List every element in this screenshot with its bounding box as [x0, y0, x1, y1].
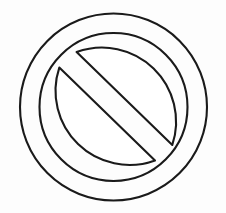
illustration-canvas: Black outline drawing of a circular proh…	[0, 0, 226, 213]
prohibition-sign-illustration: Black outline drawing of a circular proh…	[0, 0, 226, 213]
outer-ring-icon	[20, 14, 207, 201]
